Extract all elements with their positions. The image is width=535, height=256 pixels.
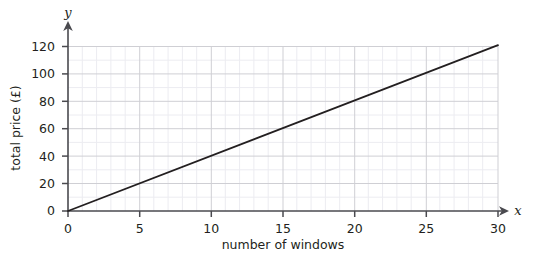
x-tick-label: 20: [347, 221, 363, 236]
x-tick-label: 10: [203, 221, 219, 236]
y-tick-label: 40: [39, 149, 55, 164]
x-tick-label: 30: [490, 221, 506, 236]
x-axis-variable-label: x: [514, 203, 522, 218]
x-tick-label: 5: [136, 221, 144, 236]
y-tick-label: 120: [31, 39, 55, 54]
x-axis-ticks: [68, 211, 498, 217]
y-axis-variable-label: y: [63, 5, 72, 20]
y-axis-ticks: [62, 47, 68, 212]
x-tick-label: 15: [275, 221, 291, 236]
line-chart: 0 20 40 60 80 100 120 0 5 10 15 20 25 30…: [0, 0, 535, 256]
x-tick-label: 25: [418, 221, 434, 236]
y-axis-title: total price (£): [8, 85, 23, 170]
y-tick-label: 80: [39, 94, 55, 109]
y-tick-label: 100: [31, 66, 55, 81]
y-tick-label: 20: [39, 176, 55, 191]
chart-canvas: 0 20 40 60 80 100 120 0 5 10 15 20 25 30…: [0, 0, 535, 256]
x-axis-title: number of windows: [222, 237, 345, 252]
y-tick-label: 0: [47, 203, 55, 218]
y-tick-label: 60: [39, 121, 55, 136]
x-tick-label: 0: [64, 221, 72, 236]
y-axis: [63, 21, 73, 211]
x-axis: [68, 206, 509, 216]
